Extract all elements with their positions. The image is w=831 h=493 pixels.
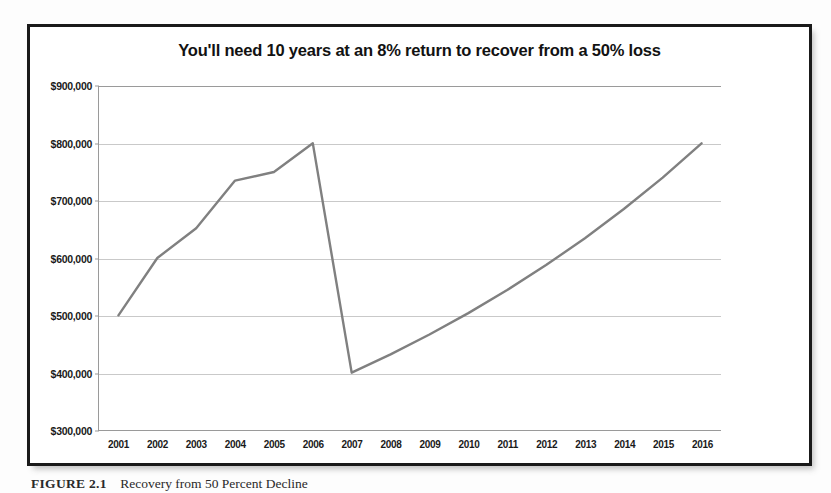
y-axis-tick-label: $900,000 [51, 80, 92, 92]
chart-title: You'll need 10 years at an 8% return to … [30, 41, 809, 60]
y-axis-tick-label: $300,000 [51, 425, 92, 437]
page-background: You'll need 10 years at an 8% return to … [0, 0, 831, 493]
y-axis-tick-label: $700,000 [51, 195, 92, 207]
x-axis-tick-label: 2003 [186, 439, 207, 450]
x-axis-tick-label: 2004 [225, 439, 246, 450]
x-axis-tick-label: 2011 [498, 439, 519, 450]
x-axis-tick-label: 2015 [653, 439, 674, 450]
x-axis-tick-label: 2002 [147, 439, 168, 450]
y-axis-tick-mark [95, 431, 99, 432]
x-axis-tick-label: 2001 [108, 439, 129, 450]
y-axis-tick-label: $400,000 [51, 368, 92, 380]
figure-caption-text [110, 476, 117, 491]
x-axis-tick-label: 2010 [458, 439, 479, 450]
portfolio-value-line [118, 143, 701, 372]
x-axis-tick-label: 2013 [575, 439, 596, 450]
x-axis-tick-label: 2005 [264, 439, 285, 450]
y-axis-tick-label: $600,000 [51, 253, 92, 265]
plot-area: $900,000$800,000$700,000$600,000$500,000… [98, 86, 721, 431]
series-line-chart [99, 86, 721, 430]
figure-caption-body: Recovery from 50 Percent Decline [120, 476, 307, 491]
figure-caption-label: FIGURE 2.1 [31, 476, 107, 491]
x-axis-tick-label: 2008 [381, 439, 402, 450]
x-axis-tick-label: 2007 [342, 439, 363, 450]
figure-frame: You'll need 10 years at an 8% return to … [27, 24, 812, 466]
x-axis-tick-label: 2009 [419, 439, 440, 450]
y-axis-tick-label: $800,000 [51, 138, 92, 150]
x-axis-tick-label: 2016 [692, 439, 713, 450]
y-axis-tick-label: $500,000 [51, 310, 92, 322]
figure-caption: FIGURE 2.1 Recovery from 50 Percent Decl… [31, 476, 791, 493]
x-axis-tick-label: 2012 [536, 439, 557, 450]
x-axis-tick-label: 2014 [614, 439, 635, 450]
x-axis-tick-label: 2006 [303, 439, 324, 450]
